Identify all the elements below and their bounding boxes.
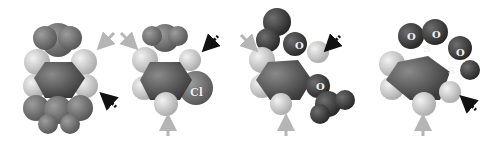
atom-label-cl: Cl: [190, 86, 203, 99]
atom-label-o-4: O: [432, 29, 441, 40]
atom-label-o-3: O: [407, 31, 416, 42]
molecule-figure: Cl O O O O S O S: [0, 0, 504, 144]
molecule-a: [23, 23, 98, 134]
atom-label-o-5: O: [456, 47, 465, 58]
black-dashed-arrow-c: [330, 36, 340, 46]
black-dashed-arrow-b: [208, 36, 218, 46]
atom-label-s-1: S: [423, 43, 430, 54]
gray-arrow-b1: [121, 33, 132, 44]
atom-label-o-1: O: [295, 40, 304, 51]
atom-label-s-2: S: [448, 65, 455, 76]
gray-arrow-c1: [241, 35, 252, 46]
molecule-d: [379, 19, 480, 116]
black-dashed-arrow-d: [466, 101, 476, 110]
gray-arrow-a: [103, 33, 114, 44]
atom-label-o-2: O: [316, 81, 325, 92]
molecule-c: [249, 8, 355, 124]
molecule-b: [132, 24, 213, 116]
black-dashed-arrow-a: [106, 98, 116, 107]
